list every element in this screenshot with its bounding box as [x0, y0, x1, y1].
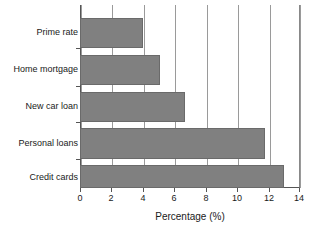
bar-credit-cards [80, 165, 284, 188]
xtick-label-0: 0 [70, 193, 90, 204]
xtick-label-10: 10 [227, 193, 247, 204]
x-axis-title: Percentage (%) [80, 211, 300, 223]
bars-layer [80, 5, 300, 188]
ytick-mark [76, 86, 80, 87]
ytick-label-new-car-loan: New car loan [0, 101, 78, 112]
ytick-label-personal-loans: Personal loans [0, 138, 78, 149]
xtick-label-6: 6 [164, 193, 184, 204]
xtick-mark [206, 188, 207, 192]
gridline [300, 5, 301, 188]
ytick-mark [76, 122, 80, 123]
bar-new-car-loan [80, 92, 185, 122]
bar-prime-rate [80, 18, 143, 48]
xtick-mark [174, 188, 175, 192]
xtick-label-14: 14 [289, 193, 309, 204]
xtick-mark [111, 188, 112, 192]
xtick-mark [299, 188, 300, 192]
bar-personal-loans [80, 128, 265, 159]
xtick-label-12: 12 [259, 193, 279, 204]
ytick-mark [76, 48, 80, 49]
xtick-mark [269, 188, 270, 192]
bar-home-mortgage [80, 55, 160, 85]
xtick-mark [80, 188, 81, 192]
xtick-label-2: 2 [101, 193, 121, 204]
bar-chart: Prime rate Home mortgage New car loan Pe… [0, 0, 322, 235]
category-axis: Prime rate Home mortgage New car loan Pe… [0, 0, 78, 235]
ytick-label-home-mortgage: Home mortgage [0, 64, 78, 75]
ytick-mark [76, 159, 80, 160]
xtick-label-8: 8 [196, 193, 216, 204]
xtick-label-4: 4 [133, 193, 153, 204]
ytick-label-credit-cards: Credit cards [0, 172, 78, 183]
xtick-mark [143, 188, 144, 192]
xtick-mark [237, 188, 238, 192]
ytick-label-prime-rate: Prime rate [0, 27, 78, 38]
